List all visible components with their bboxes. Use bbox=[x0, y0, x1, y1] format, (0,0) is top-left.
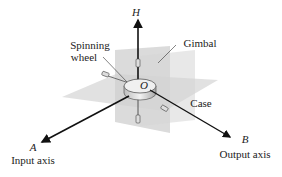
gyroscope-diagram: H O Spinning wheel Gimbal Case A Input a… bbox=[0, 0, 282, 177]
b-axis-label: B bbox=[242, 133, 249, 145]
rear-bearing bbox=[101, 71, 109, 77]
origin-label: O bbox=[140, 79, 148, 91]
h-axis-label: H bbox=[131, 6, 141, 18]
spinning-wheel-label-2: wheel bbox=[71, 51, 97, 63]
output-axis-label: Output axis bbox=[219, 148, 270, 160]
lower-bearing bbox=[136, 115, 140, 123]
upper-bearing bbox=[136, 59, 140, 67]
case-label: Case bbox=[190, 97, 212, 109]
input-axis-label: Input axis bbox=[11, 154, 55, 166]
a-axis-label: A bbox=[29, 141, 37, 153]
spinning-wheel-label-1: Spinning bbox=[70, 39, 110, 51]
gimbal-label: Gimbal bbox=[184, 37, 217, 49]
